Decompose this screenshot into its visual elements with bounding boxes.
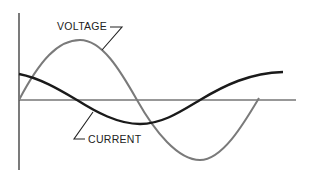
current-label: CURRENT [88, 133, 142, 145]
voltage-current-diagram: VOLTAGE CURRENT [0, 0, 310, 177]
current-curve [19, 72, 283, 124]
voltage-label: VOLTAGE [57, 20, 107, 32]
